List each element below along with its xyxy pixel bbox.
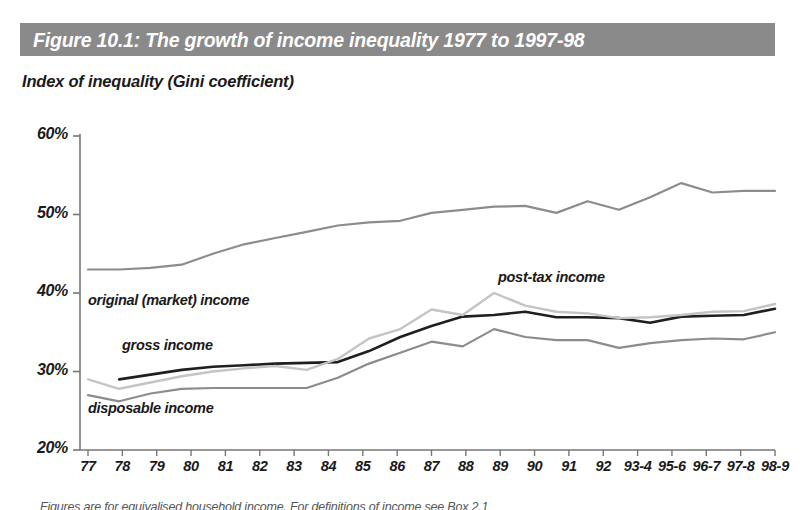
y-axis-tick-label: 50%	[14, 204, 68, 222]
figure-footnote: Figures are for equivalised household in…	[40, 500, 780, 510]
y-axis-tick-label: 30%	[14, 361, 68, 379]
y-axis-tick-label: 20%	[14, 439, 68, 457]
line-chart-plot	[0, 0, 802, 510]
series-label-original-market-income: original (market) income	[88, 292, 249, 308]
y-axis-tick-label: 40%	[14, 282, 68, 300]
x-axis-tick-label: 98-9	[753, 458, 797, 474]
series-line-original-market-income	[88, 183, 775, 269]
series-label-post-tax-income: post-tax income	[498, 269, 605, 285]
series-label-gross-income: gross income	[122, 337, 213, 353]
y-axis-tick-label: 60%	[14, 125, 68, 143]
series-label-disposable-income: disposable income	[88, 400, 213, 416]
figure-container: Figure 10.1: The growth of income inequa…	[0, 0, 802, 510]
